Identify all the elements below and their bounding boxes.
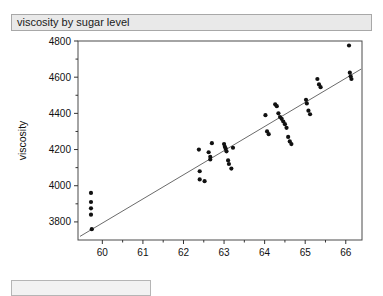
- data-point: [275, 104, 279, 108]
- x-axis-title: sugar level: [195, 261, 246, 263]
- y-tick-label: 4800: [49, 36, 72, 47]
- page-title: viscosity by sugar level: [12, 15, 130, 30]
- y-tick-label: 3800: [49, 216, 72, 227]
- y-tick-label: 4000: [49, 180, 72, 191]
- data-point: [197, 147, 201, 151]
- x-tick-label: 62: [178, 247, 190, 258]
- data-point: [90, 227, 94, 231]
- data-point: [306, 109, 310, 113]
- data-point: [349, 77, 353, 81]
- data-point: [198, 177, 202, 181]
- chart-canvas: 38004000420044004600480060616263646566su…: [0, 31, 383, 263]
- data-point: [315, 77, 319, 81]
- data-point: [224, 149, 228, 153]
- data-point: [289, 142, 293, 146]
- data-point: [202, 179, 206, 183]
- data-point: [267, 132, 271, 136]
- data-point: [263, 113, 267, 117]
- data-point: [283, 122, 287, 126]
- x-tick-label: 60: [97, 247, 109, 258]
- data-point: [319, 85, 323, 89]
- data-point: [226, 158, 230, 162]
- x-tick-label: 65: [300, 247, 312, 258]
- data-point: [198, 169, 202, 173]
- y-tick-label: 4200: [49, 144, 72, 155]
- data-point: [304, 98, 308, 102]
- chart-title-bar: viscosity by sugar level: [11, 14, 372, 31]
- y-tick-label: 4400: [49, 108, 72, 119]
- data-point: [284, 126, 288, 130]
- status-panel: [11, 280, 151, 296]
- data-point: [89, 200, 93, 204]
- y-tick-label: 4600: [49, 72, 72, 83]
- x-tick-label: 66: [340, 247, 352, 258]
- data-point: [227, 162, 231, 166]
- data-point: [207, 150, 211, 154]
- data-point: [286, 135, 290, 139]
- data-point: [89, 191, 93, 195]
- y-axis-title: viscosity: [16, 120, 28, 160]
- data-point: [347, 43, 351, 47]
- x-tick-label: 61: [137, 247, 149, 258]
- data-point: [276, 111, 280, 115]
- data-point: [308, 112, 312, 116]
- scatter-plot: 38004000420044004600480060616263646566su…: [0, 31, 383, 263]
- data-point: [229, 166, 233, 170]
- data-point: [89, 213, 93, 217]
- data-point: [305, 101, 309, 105]
- x-tick-label: 64: [259, 247, 271, 258]
- data-point: [208, 157, 212, 161]
- data-point: [210, 141, 214, 145]
- x-tick-label: 63: [218, 247, 230, 258]
- data-point: [231, 146, 235, 150]
- plot-frame: [78, 41, 362, 240]
- data-point: [348, 71, 352, 75]
- data-point: [89, 206, 93, 210]
